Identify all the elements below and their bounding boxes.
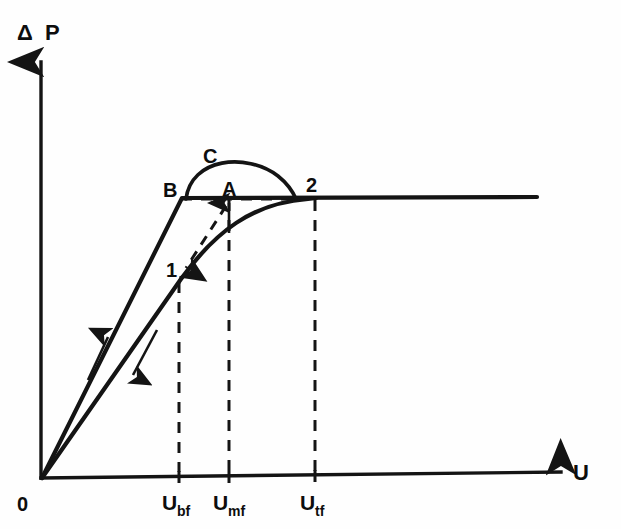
tick-label-utf-base: U (300, 491, 315, 514)
axis-group (41, 62, 561, 478)
arrow-increasing-direction (88, 337, 108, 380)
label-point-c: C (203, 145, 217, 167)
tick-label-umf: U mf (213, 491, 245, 519)
pressure-drop-velocity-chart: Δ P U 0 B C A 2 1 U bf U mf U tf (0, 0, 621, 529)
curve-decreasing-branch (42, 198, 316, 478)
tick-label-ubf: U bf (162, 491, 191, 519)
tick-label-ubf-base: U (162, 491, 177, 514)
curve-increasing-branch (42, 197, 537, 478)
x-axis-line (41, 472, 561, 478)
tick-label-utf: U tf (300, 491, 325, 519)
label-point-b: B (163, 179, 177, 201)
tick-label-umf-base: U (213, 491, 228, 514)
y-axis-label-delta: Δ (17, 20, 33, 45)
label-point-1: 1 (166, 259, 177, 281)
figure-root: Δ P U 0 B C A 2 1 U bf U mf U tf (0, 0, 621, 529)
label-point-a: A (222, 178, 236, 200)
tick-label-umf-sub: mf (228, 503, 245, 519)
x-axis-label: U (573, 460, 589, 485)
origin-label: 0 (17, 493, 28, 515)
curve-overshoot-arc-c (186, 162, 296, 199)
label-point-2: 2 (306, 174, 317, 196)
tick-label-ubf-sub: bf (177, 503, 191, 519)
tick-label-utf-sub: tf (315, 503, 325, 519)
dashed-verticals (179, 200, 315, 472)
arrow-decreasing-direction (133, 330, 157, 375)
y-axis-label-p: P (45, 20, 60, 45)
